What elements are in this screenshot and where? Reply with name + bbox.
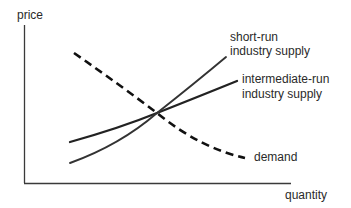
short-run-supply-curve [70,57,226,163]
short-run-supply-label-line1: short-run [230,30,278,44]
intermediate-run-supply-label: intermediate-run industry supply [242,72,333,101]
intermediate-run-supply-label-line1: intermediate-run [242,72,329,86]
short-run-supply-label: short-run industry supply [230,30,310,58]
demand-curve [74,53,245,158]
x-axis-label: quantity [285,188,327,202]
demand-label: demand [254,150,297,164]
y-axis-label: price [17,8,43,22]
short-run-supply-label-line2: industry supply [230,44,310,58]
intermediate-run-supply-label-line2: industry supply [242,87,322,101]
supply-demand-diagram: price quantity short-run industry supply… [0,0,351,208]
